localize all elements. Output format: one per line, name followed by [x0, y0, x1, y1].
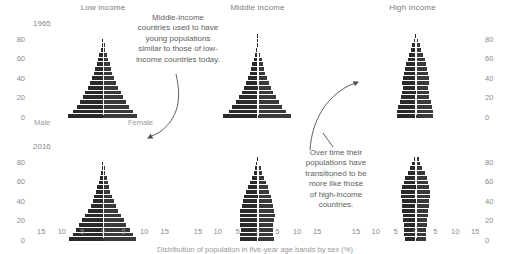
column-title-middle-income: Middle income: [190, 3, 325, 12]
bar-female: [258, 185, 268, 189]
x-axis-tick: 15: [313, 228, 321, 236]
bar-male: [403, 214, 416, 218]
pyramid-center-line: [258, 30, 259, 115]
y-axis-tick: 40: [3, 75, 25, 83]
bar-male: [77, 105, 103, 109]
bar-male: [88, 209, 103, 213]
bar-female: [416, 204, 429, 208]
bar-male: [402, 185, 416, 189]
bar-male: [80, 100, 103, 104]
bar-female: [103, 209, 118, 213]
bar-female: [258, 199, 272, 203]
bar-female: [416, 76, 429, 80]
y-axis-tick: 60: [3, 178, 25, 186]
bar-male: [401, 190, 415, 194]
y-axis-right-1965: 806040200: [485, 30, 507, 118]
bar-female: [103, 218, 124, 222]
y-axis-tick: 40: [485, 75, 507, 83]
bar-female: [416, 53, 424, 57]
y-axis-tick: 60: [485, 178, 507, 186]
bar-female: [416, 105, 433, 109]
bar-female: [103, 214, 121, 218]
bar-female: [103, 76, 114, 80]
row-label-2016: 2016: [33, 142, 51, 151]
bar-female: [416, 214, 428, 218]
x-axis-tick: 10: [372, 228, 380, 236]
bar-female: [258, 95, 276, 99]
y-axis-tick: 20: [485, 94, 507, 102]
bar-male: [232, 105, 257, 109]
bar-female: [103, 190, 110, 194]
y-axis-tick: 0: [485, 114, 507, 122]
bar-male: [406, 62, 416, 66]
bar-male: [94, 72, 103, 76]
bar-male: [73, 110, 103, 114]
bar-female: [416, 166, 423, 170]
bar-female: [416, 209, 429, 213]
pyramid-center-line: [258, 153, 259, 238]
bar-male: [96, 190, 103, 194]
pyramid-center-line: [103, 30, 104, 115]
bar-female: [103, 72, 112, 76]
pyramid-high-income-1965: [348, 30, 483, 118]
bar-female: [416, 58, 425, 62]
x-axis-tick: 15: [161, 228, 169, 236]
bar-male: [401, 195, 415, 199]
bar-female: [416, 176, 427, 180]
bar-male: [405, 176, 415, 180]
bar-female: [416, 110, 433, 114]
y-axis-tick: 20: [485, 217, 507, 225]
y-axis-tick: 60: [485, 55, 507, 63]
y-axis-tick: 60: [3, 55, 25, 63]
bar-female: [258, 110, 286, 114]
bar-male: [90, 81, 103, 85]
bar-male: [239, 95, 258, 99]
bar-male: [246, 81, 258, 85]
bar-female: [103, 67, 111, 71]
bar-female: [103, 195, 112, 199]
bar-male: [244, 86, 258, 90]
bar-female: [103, 81, 116, 85]
y-axis-left-2016: 806040200: [3, 153, 25, 241]
column-title-high-income: High income: [345, 3, 480, 12]
bar-male: [91, 204, 103, 208]
bar-male: [85, 91, 103, 95]
bar-female: [258, 190, 270, 194]
bar-female: [103, 105, 129, 109]
y-axis-tick: 20: [3, 94, 25, 102]
bar-male: [223, 114, 257, 118]
bar-male: [94, 195, 103, 199]
bar-male: [397, 114, 415, 118]
bar-male: [403, 86, 416, 90]
x-axis-tick: 5: [394, 228, 398, 236]
bar-female: [258, 86, 272, 90]
y-axis-tick: 0: [485, 237, 507, 245]
x-axis-tick: 15: [471, 228, 479, 236]
bar-female: [103, 199, 114, 203]
bar-female: [258, 72, 266, 76]
y-axis-tick: 0: [3, 114, 25, 122]
bar-female: [416, 72, 428, 76]
y-axis-tick: 40: [3, 198, 25, 206]
bar-male: [404, 72, 416, 76]
bar-female: [258, 195, 271, 199]
x-axis-tick: 5: [236, 228, 240, 236]
x-axis-tick: 10: [58, 228, 66, 236]
bar-female: [103, 86, 118, 90]
column-title-low-income: Low income: [33, 3, 173, 12]
bar-male: [405, 67, 416, 71]
y-axis-tick: 80: [3, 159, 25, 167]
bar-male: [250, 72, 258, 76]
bar-male: [402, 204, 415, 208]
bar-male: [402, 81, 415, 85]
bar-male: [85, 214, 103, 218]
bar-female: [416, 86, 429, 90]
bar-female: [103, 110, 133, 114]
bar-male: [408, 171, 416, 175]
bar-male: [402, 209, 415, 213]
bar-male: [246, 190, 258, 194]
bar-female: [258, 100, 279, 104]
pyramid-center-line: [416, 30, 417, 115]
bar-female: [103, 91, 121, 95]
bar-male: [82, 218, 103, 222]
